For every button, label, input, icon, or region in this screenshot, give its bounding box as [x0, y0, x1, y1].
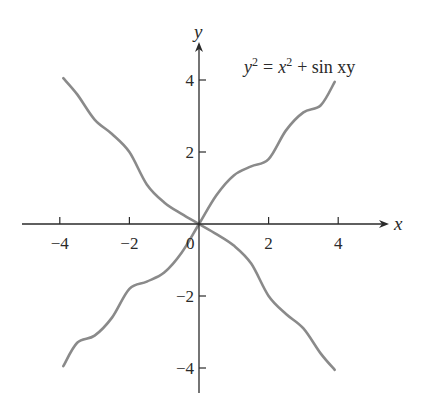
x-tick-label: 4 [334, 234, 343, 253]
y-tick-label: 4 [186, 71, 195, 90]
chart: −4−224 42−2−4 x y 0 y2=x2+ sin xy [0, 0, 424, 404]
equation-label: y2=x2+ sin xy [242, 55, 355, 77]
x-tick-label: 2 [264, 234, 273, 253]
y-tick-label: 2 [186, 143, 195, 162]
x-axis-label: x [393, 213, 403, 234]
eq-equals: = [263, 57, 273, 77]
y-axis-label: y [192, 21, 203, 42]
eq-rhs-exp: 2 [286, 55, 292, 69]
origin-label: 0 [186, 234, 195, 253]
x-tick-label: −2 [120, 234, 138, 253]
eq-lhs-exp: 2 [252, 55, 258, 69]
y-tick-label: −2 [176, 287, 194, 306]
y-tick-label: −4 [176, 359, 195, 378]
eq-lhs-var: y [242, 57, 252, 77]
x-tick-label: −4 [51, 234, 70, 253]
eq-rhs-var: x [277, 57, 286, 77]
eq-rhs-rest: + sin xy [297, 57, 355, 77]
